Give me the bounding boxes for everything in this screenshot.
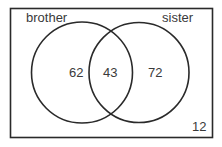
- intersection-count: 43: [103, 65, 117, 80]
- brother-label: brother: [26, 10, 68, 25]
- sister-label: sister: [162, 10, 194, 25]
- sister-only-count: 72: [148, 65, 162, 80]
- venn-diagram: brother sister 62 43 72 12: [0, 0, 222, 147]
- outside-count: 12: [192, 119, 206, 134]
- brother-only-count: 62: [69, 65, 83, 80]
